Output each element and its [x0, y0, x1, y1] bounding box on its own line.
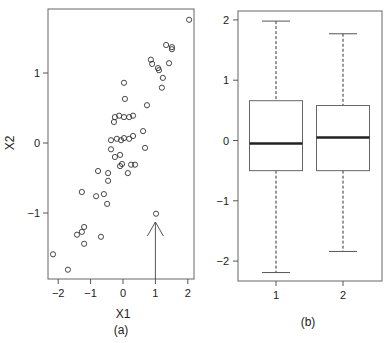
data-point: [94, 194, 99, 199]
y-tick-label: 0: [34, 137, 40, 149]
x-tick-label: −1: [84, 287, 97, 299]
data-point: [65, 267, 70, 272]
data-point: [117, 152, 122, 157]
data-point: [121, 80, 126, 85]
scatter-x-axis: −2−1012: [52, 279, 191, 299]
data-point: [105, 171, 110, 176]
x-tick-label: 2: [185, 287, 191, 299]
data-point: [50, 252, 55, 257]
y-axis-label: X2: [3, 135, 17, 150]
data-point: [160, 75, 165, 80]
data-point: [130, 133, 135, 138]
data-point: [98, 234, 103, 239]
data-point: [186, 17, 191, 22]
data-point: [108, 147, 113, 152]
x-tick-label: 0: [120, 287, 126, 299]
data-point: [142, 145, 147, 150]
boxplot-boxes: [250, 21, 370, 272]
panel-label-a: (a): [114, 323, 129, 337]
data-point: [121, 115, 126, 120]
boxplot-panel: −2−1012 12 (b): [216, 11, 382, 329]
data-point: [122, 96, 127, 101]
boxplot-y-axis: −2−1012: [216, 14, 238, 267]
data-point: [105, 201, 110, 206]
data-point: [140, 129, 145, 134]
data-point: [163, 42, 168, 47]
y-tick-label: 1: [223, 74, 229, 86]
data-point: [159, 85, 164, 90]
boxplot-x-axis: 12: [273, 281, 346, 301]
panel-label-b: (b): [301, 315, 316, 329]
y-tick-label: 1: [34, 67, 40, 79]
x-tick-label: 1: [273, 289, 279, 301]
data-point: [144, 103, 149, 108]
data-point: [74, 232, 79, 237]
data-point: [95, 168, 100, 173]
data-point: [166, 61, 171, 66]
data-point: [108, 138, 113, 143]
y-tick-label: −2: [216, 255, 229, 267]
figure: −2−1012 −101 X1 X2 (a) −2−1012 12 (b): [0, 0, 387, 343]
scatter-panel: −2−1012 −101 X1 X2 (a): [3, 9, 194, 337]
data-point: [153, 211, 158, 216]
data-point: [101, 192, 106, 197]
x-tick-label: 1: [152, 287, 158, 299]
data-point: [132, 162, 137, 167]
y-tick-label: −1: [216, 195, 229, 207]
iqr-box: [250, 101, 303, 171]
x-tick-label: 2: [340, 289, 346, 301]
x-tick-label: −2: [52, 287, 65, 299]
data-point: [111, 119, 116, 124]
y-tick-label: 2: [223, 14, 229, 26]
data-point: [82, 224, 87, 229]
box-2: [317, 34, 370, 252]
data-point: [112, 154, 117, 159]
data-point: [82, 241, 87, 246]
x-axis-label: X1: [116, 307, 131, 321]
arrow-annotation: [147, 222, 163, 279]
scatter-points: [50, 17, 191, 272]
box-1: [250, 21, 303, 272]
data-point: [79, 189, 84, 194]
scatter-y-axis: −101: [27, 67, 48, 219]
y-tick-label: −1: [27, 207, 40, 219]
data-point: [125, 171, 130, 176]
data-point: [79, 229, 84, 234]
y-tick-label: 0: [223, 135, 229, 147]
data-point: [105, 178, 110, 183]
